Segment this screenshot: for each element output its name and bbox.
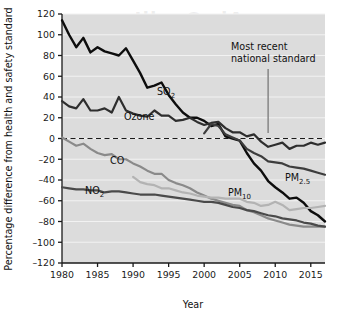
y-tick-label: 40: [43, 91, 55, 102]
y-tick-label: 100: [37, 29, 55, 40]
y-tick-label: 120: [37, 8, 55, 19]
y-tick-label: 60: [43, 71, 55, 82]
x-tick-label: 1985: [86, 269, 110, 280]
air-quality-trend-chart: Air Quality bleed bleed –120–100–80–60–4…: [0, 0, 341, 317]
y-tick-label: –40: [38, 174, 55, 185]
x-tick-label: 2010: [263, 269, 287, 280]
y-tick-label: –120: [32, 257, 55, 268]
x-axis-tick-labels: 19801985199019952000200520102015: [50, 269, 323, 280]
y-tick-label: –60: [38, 195, 55, 206]
y-tick-label: 80: [43, 50, 55, 61]
x-tick-label: 1990: [121, 269, 145, 280]
y-tick-label: –20: [38, 154, 55, 165]
y-tick-label: 0: [49, 133, 55, 144]
x-tick-label: 2005: [228, 269, 252, 280]
x-axis-title: Year: [182, 299, 203, 310]
x-tick-label: 2015: [299, 269, 323, 280]
x-tick-label: 1980: [50, 269, 74, 280]
x-tick-label: 2000: [192, 269, 216, 280]
x-tick-label: 1995: [157, 269, 181, 280]
chart-svg: –120–100–80–60–40–20020406080100120 1980…: [0, 0, 341, 317]
annotation-line-1: Most recent: [231, 41, 288, 52]
y-tick-label: –80: [38, 216, 55, 227]
y-axis-title: Percentage difference from health and sa…: [3, 7, 14, 270]
y-axis-tick-labels: –120–100–80–60–40–20020406080100120: [32, 8, 55, 268]
series-label-ozone: Ozone: [124, 111, 155, 122]
series-label-co: CO: [110, 155, 125, 166]
y-tick-label: 20: [43, 112, 55, 123]
y-tick-label: –100: [32, 237, 55, 248]
annotation-line-2: national standard: [231, 53, 315, 64]
